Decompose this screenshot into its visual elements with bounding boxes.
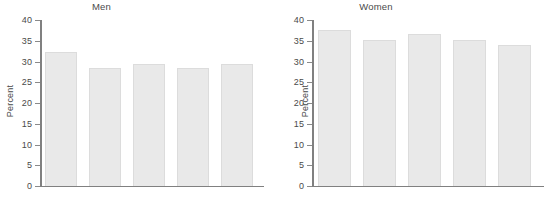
y-tick-label-women-20: 20 xyxy=(294,98,304,108)
bar-series-women xyxy=(313,20,543,186)
bar-slot-men-2000 xyxy=(89,20,121,186)
y-tick-label-women-5: 5 xyxy=(299,160,304,170)
y-tick-label-men-35: 35 xyxy=(22,36,32,46)
panel-title-men: Men xyxy=(0,1,238,12)
chart-panel-women: Women Percent 40 35 30 25 20 15 10 5 0 xyxy=(273,0,553,213)
x-tick-label-men-2010: 2010 xyxy=(177,212,209,213)
y-tick-men-20 xyxy=(35,103,40,104)
chart-figure: Men Percent 40 35 30 25 20 15 10 5 0 xyxy=(0,0,553,213)
y-tick-label-men-30: 30 xyxy=(22,57,32,67)
y-tick-men-35 xyxy=(35,41,40,42)
x-tick-label-women-1997: 1997 xyxy=(318,212,351,213)
y-tick-men-0 xyxy=(35,186,40,187)
y-tick-label-women-0: 0 xyxy=(299,181,304,191)
x-tick-label-men-1997: 1997 xyxy=(45,212,77,213)
y-tick-women-10 xyxy=(307,145,312,146)
bar-slot-women-2012 xyxy=(498,20,531,186)
bar-women-2000[interactable] xyxy=(363,40,396,186)
y-tick-women-35 xyxy=(307,41,312,42)
bar-women-1997[interactable] xyxy=(318,30,351,186)
y-tick-label-women-40: 40 xyxy=(294,15,304,25)
y-tick-label-women-35: 35 xyxy=(294,36,304,46)
x-tick-label-women-2000: 2000 xyxy=(363,212,396,213)
bar-slot-men-2012 xyxy=(221,20,253,186)
bar-men-2012[interactable] xyxy=(221,64,253,186)
bar-women-2008[interactable] xyxy=(408,34,441,186)
y-tick-men-10 xyxy=(35,145,40,146)
y-tick-label-men-25: 25 xyxy=(22,77,32,87)
bar-women-2012[interactable] xyxy=(498,45,531,186)
bar-slot-men-2010 xyxy=(177,20,209,186)
y-tick-label-men-20: 20 xyxy=(22,98,32,108)
x-tick-label-men-2000: 2000 xyxy=(89,212,121,213)
x-tick-label-men-2008: 2008 xyxy=(133,212,165,213)
y-tick-label-women-25: 25 xyxy=(294,77,304,87)
y-tick-label-men-5: 5 xyxy=(27,160,32,170)
y-tick-label-men-0: 0 xyxy=(27,181,32,191)
y-tick-women-15 xyxy=(307,124,312,125)
y-tick-women-40 xyxy=(307,20,312,21)
y-tick-men-25 xyxy=(35,82,40,83)
y-tick-label-women-10: 10 xyxy=(294,140,304,150)
y-tick-women-0 xyxy=(307,186,312,187)
bar-slot-women-1997 xyxy=(318,20,351,186)
chart-panel-men: Men Percent 40 35 30 25 20 15 10 5 0 xyxy=(0,0,273,213)
y-tick-men-15 xyxy=(35,124,40,125)
x-tick-label-men-2012: 2012 xyxy=(221,212,253,213)
x-tick-label-women-2010: 2010 xyxy=(453,212,486,213)
y-tick-women-25 xyxy=(307,82,312,83)
y-tick-men-5 xyxy=(35,165,40,166)
y-tick-label-women-15: 15 xyxy=(294,119,304,129)
x-tick-label-women-2008: 2008 xyxy=(408,212,441,213)
bar-men-2010[interactable] xyxy=(177,68,209,186)
bar-slot-men-1997 xyxy=(45,20,77,186)
bar-men-1997[interactable] xyxy=(45,52,77,186)
bar-slot-women-2000 xyxy=(363,20,396,186)
y-tick-women-30 xyxy=(307,62,312,63)
y-tick-label-men-10: 10 xyxy=(22,140,32,150)
y-tick-men-40 xyxy=(35,20,40,21)
plot-area-men: 40 35 30 25 20 15 10 5 0 xyxy=(41,20,263,186)
y-tick-women-5 xyxy=(307,165,312,166)
y-tick-label-men-15: 15 xyxy=(22,119,32,129)
bar-slot-women-2010 xyxy=(453,20,486,186)
bar-slot-men-2008 xyxy=(133,20,165,186)
y-tick-men-30 xyxy=(35,62,40,63)
panel-title-women: Women xyxy=(236,1,516,12)
y-tick-women-20 xyxy=(307,103,312,104)
bar-men-2000[interactable] xyxy=(89,68,121,186)
x-tick-label-women-2012: 2012 xyxy=(498,212,531,213)
bar-men-2008[interactable] xyxy=(133,64,165,186)
bar-women-2010[interactable] xyxy=(453,40,486,187)
y-tick-label-men-40: 40 xyxy=(22,15,32,25)
plot-area-women: 40 35 30 25 20 15 10 5 0 xyxy=(313,20,543,186)
bar-slot-women-2008 xyxy=(408,20,441,186)
y-axis-label-men: Percent xyxy=(5,73,15,129)
y-tick-label-women-30: 30 xyxy=(294,57,304,67)
bar-series-men xyxy=(41,20,263,186)
